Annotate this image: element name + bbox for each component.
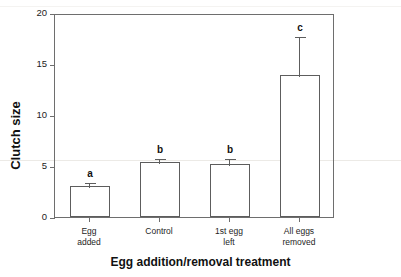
error-bar-cap (155, 159, 166, 160)
x-axis-tick-label-line: added (77, 237, 101, 248)
y-axis-tick-label: 10 (36, 110, 47, 120)
significance-letter: b (157, 145, 163, 155)
y-axis-tick: 20 (50, 14, 55, 15)
x-axis-tick-label: Control (145, 226, 172, 237)
x-axis-tick (89, 217, 90, 222)
error-bar-cap (295, 37, 306, 38)
x-axis-tick-label-line: Egg (77, 226, 101, 237)
x-axis-tick-label-line: 1st egg (215, 226, 243, 237)
significance-letter: b (227, 145, 233, 155)
y-axis-tick-label: 0 (42, 212, 47, 222)
x-axis-tick-label-line: All eggs (282, 226, 315, 237)
bar (210, 164, 250, 217)
error-bar-line (299, 37, 300, 77)
significance-letter: c (297, 23, 303, 33)
scan-artifact-top (0, 6, 401, 7)
y-axis-tick: 0 (50, 218, 55, 219)
x-axis-tick-label-line: Control (145, 226, 172, 237)
y-axis-tick-label: 15 (36, 59, 47, 69)
plot-area: 05101520abbc (54, 14, 334, 218)
error-bar-cap (225, 159, 236, 160)
y-axis-tick: 10 (50, 116, 55, 117)
y-axis-tick: 5 (50, 167, 55, 168)
x-axis-tick (299, 217, 300, 222)
y-axis-title: Clutch size (8, 88, 23, 184)
bar (140, 162, 180, 217)
error-bar-line (229, 159, 230, 166)
x-axis-tick-label: 1st eggleft (215, 226, 243, 247)
bar (70, 186, 110, 217)
y-axis-tick-label: 20 (36, 8, 47, 18)
error-bar-cap (85, 183, 96, 184)
significance-letter: a (87, 169, 93, 179)
x-axis-tick-label-line: left (215, 237, 243, 248)
bar (280, 75, 320, 217)
x-axis-tick-label: All eggsremoved (282, 226, 315, 247)
x-axis-tick (159, 217, 160, 222)
y-axis-tick-label: 5 (42, 161, 47, 171)
x-axis-tick (229, 217, 230, 222)
y-axis-tick: 15 (50, 65, 55, 66)
x-axis-tick-label: Eggadded (77, 226, 101, 247)
x-axis-title: Egg addition/removal treatment (0, 255, 401, 269)
chart-figure: Clutch size 05101520abbc Egg addition/re… (0, 0, 401, 277)
x-axis-tick-label-line: removed (282, 237, 315, 248)
